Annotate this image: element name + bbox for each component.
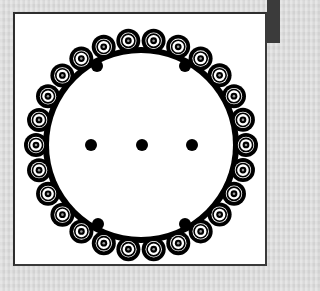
- bead: [222, 182, 246, 206]
- bead: [27, 108, 51, 132]
- bead: [36, 182, 60, 206]
- dot-middle-left: [85, 139, 97, 151]
- bead: [166, 35, 190, 59]
- bead: [27, 158, 51, 182]
- bead: [222, 84, 246, 108]
- bead: [231, 108, 255, 132]
- bead-ring-diagram: [0, 0, 280, 291]
- bead: [142, 237, 166, 261]
- bead: [166, 231, 190, 255]
- bead: [116, 237, 140, 261]
- bead: [189, 219, 213, 243]
- bead: [234, 133, 258, 157]
- bead: [208, 203, 232, 227]
- bead: [50, 203, 74, 227]
- bead: [50, 63, 74, 87]
- dot-center: [136, 139, 148, 151]
- dot-lower-left: [92, 218, 104, 230]
- bead: [92, 35, 116, 59]
- bead: [231, 158, 255, 182]
- bead: [69, 47, 93, 71]
- bead: [208, 63, 232, 87]
- dot-upper-left: [91, 60, 103, 72]
- bead: [24, 133, 48, 157]
- bead: [92, 231, 116, 255]
- bead: [69, 219, 93, 243]
- bead: [189, 47, 213, 71]
- dot-lower-right: [179, 218, 191, 230]
- dot-middle-right: [186, 139, 198, 151]
- bead: [142, 29, 166, 53]
- dot-upper-right: [179, 60, 191, 72]
- bead: [116, 29, 140, 53]
- bead: [36, 84, 60, 108]
